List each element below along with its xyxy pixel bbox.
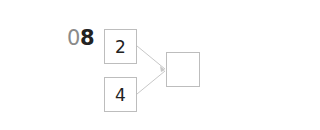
answer-box[interactable] — [166, 52, 200, 87]
input-value-top: 2 — [115, 37, 126, 57]
arrow-top — [137, 46, 165, 69]
input-box-bottom: 4 — [104, 77, 137, 112]
arrow-bottom — [137, 71, 165, 94]
input-value-bottom: 4 — [115, 85, 126, 105]
input-box-top: 2 — [104, 29, 137, 64]
